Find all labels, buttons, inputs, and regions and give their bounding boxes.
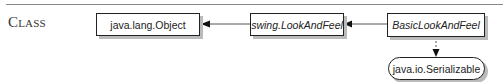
node-basiclookandfeel: BasicLookAndFeel bbox=[387, 13, 485, 37]
node-java-io-serializable: java.io.Serializable bbox=[388, 57, 485, 80]
arrowhead-icon bbox=[201, 21, 210, 28]
node-label: java.io.Serializable bbox=[393, 63, 481, 75]
arrowhead-icon bbox=[344, 21, 352, 28]
node-label: java.lang.Object bbox=[110, 19, 185, 31]
node-java-lang-object: java.lang.Object bbox=[96, 13, 200, 36]
node-label: swing.LookAndFeel bbox=[251, 19, 343, 31]
node-swing-lookandfeel: swing.LookAndFeel bbox=[250, 13, 344, 36]
node-label: BasicLookAndFeel bbox=[392, 19, 480, 31]
arrowhead-icon bbox=[433, 49, 440, 57]
